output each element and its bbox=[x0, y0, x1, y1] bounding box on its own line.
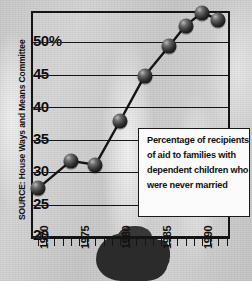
y-tick-label-35: 35 bbox=[33, 131, 49, 146]
x-tick-1973 bbox=[63, 238, 64, 246]
y-tick-label-30: 30 bbox=[33, 163, 49, 178]
data-point-1986 bbox=[162, 38, 177, 53]
y-tick-label-50: 50% bbox=[33, 33, 62, 48]
chart-figure: SOURCE: House Ways and Means Committee 5… bbox=[0, 0, 252, 281]
x-tick-1992 bbox=[218, 238, 219, 246]
x-tick-1988 bbox=[186, 238, 187, 246]
x-tick-1978 bbox=[104, 238, 105, 246]
x-tick-label-1985: 1985 bbox=[161, 226, 173, 249]
source-note: SOURCE: House Ways and Means Committee bbox=[17, 50, 27, 220]
data-point-1988 bbox=[178, 18, 193, 33]
gridline-45 bbox=[33, 75, 228, 76]
x-tick-1987 bbox=[177, 238, 178, 246]
x-tick-1979 bbox=[112, 238, 113, 246]
caption-line-1: Percentage of recipients bbox=[147, 136, 243, 146]
x-tick-1977 bbox=[95, 238, 96, 246]
x-tick-label-1980: 1980 bbox=[120, 226, 132, 249]
y-tick-label-25: 25 bbox=[33, 196, 49, 211]
data-point-1977 bbox=[88, 157, 103, 172]
x-tick-1984 bbox=[153, 238, 154, 246]
x-tick-1982 bbox=[136, 238, 137, 246]
data-point-1992 bbox=[211, 12, 226, 27]
y-tick-label-45: 45 bbox=[33, 66, 49, 81]
data-point-1983 bbox=[137, 68, 152, 83]
data-point-1990 bbox=[195, 5, 210, 20]
y-tick-label-40: 40 bbox=[33, 99, 49, 114]
caption-line-2: of aid to families with bbox=[147, 151, 243, 161]
data-point-1974 bbox=[63, 153, 78, 168]
gridline-40 bbox=[33, 107, 228, 108]
x-tick-label-1975: 1975 bbox=[79, 226, 91, 249]
gridline-50 bbox=[33, 42, 228, 43]
x-tick-1972 bbox=[54, 238, 55, 246]
data-point-1970 bbox=[31, 181, 46, 196]
x-tick-label-1990: 1990 bbox=[202, 226, 214, 249]
x-tick-1993 bbox=[227, 238, 228, 246]
x-tick-1983 bbox=[145, 238, 146, 246]
caption-box: Percentage of recipients of aid to famil… bbox=[138, 128, 250, 217]
data-point-1980 bbox=[113, 114, 128, 129]
x-tick-1989 bbox=[194, 238, 195, 246]
caption-line-4: were never married bbox=[147, 181, 243, 191]
x-tick-1974 bbox=[71, 238, 72, 246]
caption-line-3: dependent children who bbox=[147, 166, 243, 176]
x-tick-label-1970: 1970 bbox=[38, 226, 50, 249]
